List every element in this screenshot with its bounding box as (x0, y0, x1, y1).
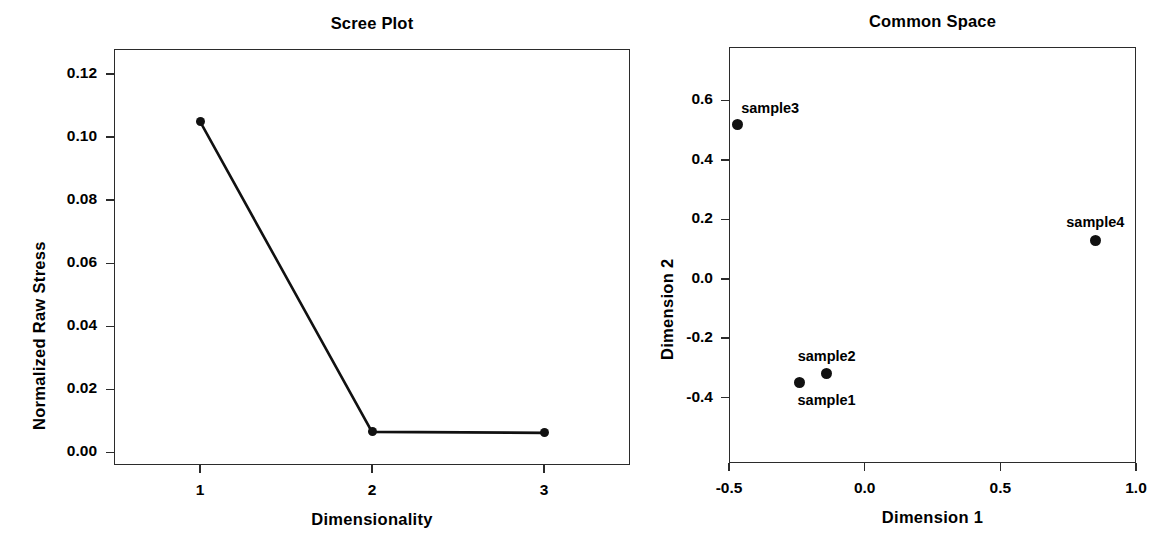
common-space-y-tick-mark (721, 219, 729, 221)
scree-plot-title: Scree Plot (114, 14, 630, 33)
scree-x-tick-mark (543, 465, 545, 473)
common-space-y-tick-label: 0.2 (629, 209, 713, 227)
common-space-panel: Common Space -0.4-0.20.00.20.40.6 -0.50.… (650, 0, 1172, 547)
common-space-x-tick-mark (1135, 463, 1137, 471)
scree-y-tick-mark (106, 389, 114, 391)
scree-data-point (368, 427, 377, 436)
common-space-y-tick-label: 0.4 (629, 150, 713, 168)
common-space-x-tick-mark (728, 463, 730, 471)
scree-y-axis-title: Normalized Raw Stress (30, 241, 49, 430)
common-space-y-tick-mark (721, 397, 729, 399)
scree-y-tick-mark (106, 136, 114, 138)
scree-y-tick-label: 0.02 (9, 379, 97, 397)
scree-y-tick-mark (106, 199, 114, 201)
common-space-point-label: sample3 (741, 100, 799, 116)
scree-plot-frame (114, 49, 630, 465)
scree-x-tick-mark (371, 465, 373, 473)
scree-data-point (540, 428, 549, 437)
scree-y-tick-label: 0.12 (9, 64, 97, 82)
common-space-x-tick-label: 0.5 (970, 479, 1030, 497)
scree-x-tick-mark (199, 465, 201, 473)
scree-y-tick-label: 0.00 (9, 442, 97, 460)
common-space-y-tick-mark (721, 159, 729, 161)
common-space-point-label: sample1 (798, 392, 856, 408)
scree-y-tick-mark (106, 326, 114, 328)
scree-x-axis-title: Dimensionality (114, 510, 630, 529)
common-space-y-tick-mark (721, 278, 729, 280)
common-space-x-tick-label: 1.0 (1106, 479, 1166, 497)
common-space-y-tick-mark (721, 337, 729, 339)
common-space-y-tick-label: -0.4 (629, 388, 713, 406)
scree-x-tick-label: 1 (170, 481, 230, 499)
common-space-x-axis-title: Dimension 1 (729, 508, 1136, 527)
common-space-x-tick-label: -0.5 (699, 479, 759, 497)
common-space-x-tick-label: 0.0 (835, 479, 895, 497)
common-space-data-point (1090, 235, 1101, 246)
scree-data-point (196, 117, 205, 126)
scree-x-tick-label: 3 (514, 481, 574, 499)
common-space-x-tick-mark (864, 463, 866, 471)
scree-y-tick-mark (106, 73, 114, 75)
common-space-title: Common Space (729, 12, 1136, 31)
scree-y-tick-label: 0.04 (9, 316, 97, 334)
common-space-point-label: sample2 (782, 348, 872, 364)
common-space-data-point (732, 119, 743, 130)
scree-y-tick-label: 0.08 (9, 190, 97, 208)
common-space-y-axis-title: Dimension 2 (658, 259, 677, 360)
scree-x-tick-label: 2 (342, 481, 402, 499)
figure-canvas: Scree Plot 0.000.020.040.060.080.100.12 … (0, 0, 1172, 547)
scree-y-tick-mark (106, 452, 114, 454)
scree-plot-panel: Scree Plot 0.000.020.040.060.080.100.12 … (0, 0, 650, 547)
scree-y-tick-label: 0.10 (9, 127, 97, 145)
common-space-x-tick-mark (1000, 463, 1002, 471)
common-space-point-label: sample4 (1050, 214, 1140, 230)
common-space-y-tick-label: 0.6 (629, 90, 713, 108)
scree-y-tick-label: 0.06 (9, 253, 97, 271)
scree-y-tick-mark (106, 263, 114, 265)
common-space-y-tick-mark (721, 100, 729, 102)
